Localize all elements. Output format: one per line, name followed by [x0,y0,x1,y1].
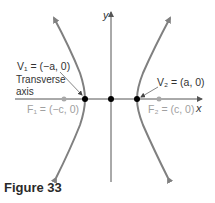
v1-label: V₁ = (−a, 0) [17,61,70,72]
v2-pointer-arrow [141,87,158,97]
left-branch-curve [54,18,85,178]
transverse-axis-label-line1: Transverse [16,75,66,85]
transverse-axis-label-line2: axis [16,87,34,97]
center-point [108,96,114,102]
hyperbola-diagram [0,0,215,203]
figure-caption: Figure 33 [4,180,62,195]
focus-f1-point [62,97,67,102]
vertex-v2-point [134,96,140,102]
v2-label: V₂ = (a, 0) [157,77,205,88]
f2-label: F₂ = (c, 0) [148,104,194,115]
focus-f2-point [157,97,162,102]
y-axis-label: y [103,10,109,21]
x-axis-label: x [196,103,202,114]
vertex-v1-point [82,96,88,102]
f1-label: F₁ = (−c, 0) [27,104,79,115]
right-branch-curve [137,18,170,178]
